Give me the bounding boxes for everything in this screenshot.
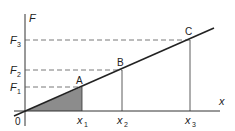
x-axis-label: x: [218, 95, 225, 107]
svg-text:3: 3: [17, 41, 21, 48]
svg-text:3: 3: [192, 121, 196, 128]
point-b-label: B: [117, 57, 124, 68]
svg-text:1: 1: [84, 121, 88, 128]
point-c-label: C: [185, 26, 192, 37]
svg-text:x: x: [184, 114, 191, 126]
svg-text:2: 2: [17, 71, 21, 78]
y-axis-label: F: [29, 12, 37, 24]
f3-label: F 3: [10, 34, 21, 48]
f2-label: F 2: [10, 64, 21, 78]
x1-label: x 1: [76, 114, 88, 128]
svg-text:1: 1: [17, 88, 21, 95]
svg-text:x: x: [116, 114, 123, 126]
svg-text:2: 2: [124, 121, 128, 128]
force-extension-graph: F x 0 F 3 F 2 F 1 A B C x 1 x 2 x 3: [0, 0, 235, 131]
f1-label: F 1: [10, 81, 21, 95]
svg-text:x: x: [76, 114, 83, 126]
x3-label: x 3: [184, 114, 196, 128]
proportional-line: [14, 28, 214, 116]
point-a-label: A: [76, 75, 83, 86]
x2-label: x 2: [116, 114, 128, 128]
origin-label: 0: [15, 116, 21, 127]
